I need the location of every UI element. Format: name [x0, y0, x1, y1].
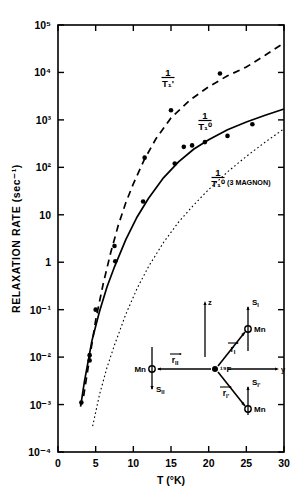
inset-rII-arrowhead [157, 367, 161, 370]
relaxation-rate-chart: 051015202530T (°K)10⁵10⁴10³10²10110⁻¹10⁻… [0, 0, 308, 494]
x-tick-label-3: 15 [165, 457, 177, 469]
label-dashed-curve: 1T₁' [162, 67, 175, 90]
inset-rIp-label: rI' [223, 388, 230, 399]
inset-spin-Ip-arrowhead [246, 386, 249, 390]
y-tick-label-8: 10⁻³ [30, 399, 52, 411]
label-dashed-curve-denominator: T₁' [162, 78, 174, 89]
data-point-solid [182, 145, 187, 150]
data-point-dashed [93, 307, 98, 312]
x-tick-label-1: 5 [93, 457, 99, 469]
inset-mn-lower-label: Mn [254, 405, 266, 414]
data-point-dashed [112, 244, 117, 249]
data-point-dashed [218, 71, 223, 76]
inset-spin-I-arrowhead [246, 306, 249, 310]
data-point-dashed [142, 155, 147, 160]
inset-z-label: z [208, 298, 212, 307]
data-point-solid [113, 259, 118, 264]
figure-root: 051015202530T (°K)10⁵10⁴10³10²10110⁻¹10⁻… [0, 0, 308, 494]
inset-spin-II-arrowhead [150, 386, 153, 390]
data-point-solid [141, 199, 146, 204]
y-tick-label-0: 10⁵ [34, 19, 51, 31]
y-tick-label-9: 10⁻⁴ [28, 446, 51, 458]
data-point-solid [190, 143, 195, 148]
y-tick-label-3: 10² [36, 161, 52, 173]
y-tick-label-2: 10³ [36, 114, 52, 126]
curve-solid [81, 109, 284, 407]
inset-y-label: y [281, 365, 286, 374]
x-tick-label-5: 25 [240, 457, 252, 469]
x-tick-label-4: 20 [203, 457, 215, 469]
inset-spin-I-label: SI [252, 298, 259, 308]
y-tick-label-7: 10⁻² [30, 351, 52, 363]
data-point-solid [225, 134, 230, 139]
label-dotted-curve-denominator: T₁⁰ [211, 178, 225, 189]
x-axis-label: T (°K) [157, 474, 185, 486]
label-dotted-curve-numerator: 1 [215, 167, 221, 178]
label-solid-curve: 1T₁⁰ [198, 110, 212, 133]
label-solid-curve-denominator: T₁⁰ [198, 121, 212, 132]
data-point-solid [203, 140, 208, 145]
data-point-solid [172, 161, 177, 166]
inset-spin-Ip-label: SI' [252, 378, 261, 388]
data-point-dashed [169, 108, 174, 113]
label-dotted-curve: 1T₁⁰(3 MAGNON) [211, 167, 271, 190]
inset-rII-label: rII [172, 355, 179, 366]
y-tick-label-6: 10⁻¹ [30, 304, 52, 316]
plot-frame [58, 25, 284, 452]
data-point-solid [79, 400, 84, 405]
y-axis-label: RELAXATION RATE (sec⁻¹) [10, 164, 22, 313]
curve-dashed [84, 43, 284, 396]
data-point-solid [250, 122, 255, 127]
y-tick-label-4: 10 [39, 209, 51, 221]
inset-y-arrowhead [275, 367, 279, 370]
inset-z-arrowhead [203, 301, 206, 305]
inset-diagram: zy¹⁹FMnrIISIIMnrISIMnrI'SI' [134, 298, 286, 415]
x-tick-label-6: 30 [278, 457, 290, 469]
x-tick-label-2: 10 [127, 457, 139, 469]
inset-mn-left-label: Mn [134, 365, 146, 374]
y-tick-label-1: 10⁴ [34, 66, 51, 78]
x-tick-label-0: 0 [55, 457, 61, 469]
inset-spin-II-label: SII [156, 385, 165, 395]
inset-f19-atom [212, 366, 218, 372]
inset-f19-label: ¹⁹F [220, 365, 231, 374]
data-point-solid [87, 358, 92, 363]
label-dashed-curve-numerator: 1 [165, 67, 171, 78]
label-dotted-curve-suffix: (3 MAGNON) [227, 178, 271, 187]
inset-mn-upper-label: Mn [254, 325, 266, 334]
y-tick-label-5: 1 [45, 256, 51, 268]
inset-rII-overbar-head [180, 353, 182, 355]
label-solid-curve-numerator: 1 [202, 110, 208, 121]
